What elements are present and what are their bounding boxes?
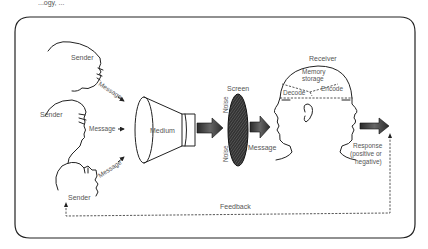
cut-off-caption: ...ogy, ... xyxy=(38,0,64,7)
post-screen-message-label: Message xyxy=(248,144,277,152)
sender-bottom: Sender Message xyxy=(56,157,124,201)
megaphone-tip-icon xyxy=(182,114,195,146)
fat-arrow-icon xyxy=(360,118,389,134)
communication-diagram: ...ogy, ... Sender Message Sender Messag… xyxy=(0,0,428,249)
medium-to-screen-arrow xyxy=(197,118,223,138)
feedback-arrowhead-right-icon xyxy=(388,133,392,138)
screen: Screen xyxy=(227,85,249,166)
screen-filter-icon xyxy=(228,94,248,166)
decode-label: Decode xyxy=(283,89,306,96)
message-label: Message xyxy=(89,125,116,133)
sender-head-icon xyxy=(56,162,98,196)
sender-head-icon xyxy=(45,100,86,163)
noise-label-bottom: Noise xyxy=(222,145,229,162)
memory-label-2: storage xyxy=(302,75,324,83)
response-label-3: negative) xyxy=(355,158,382,166)
sender-label: Sender xyxy=(68,194,91,201)
top-text-fragment: ...ogy, ... xyxy=(38,0,64,7)
noise-label-top: Noise xyxy=(222,96,229,113)
screen-label: Screen xyxy=(227,85,249,92)
ear-icon xyxy=(304,104,313,122)
feedback-arrowhead-left-icon xyxy=(64,202,68,207)
fat-arrow-icon xyxy=(250,116,270,138)
sender-middle: Sender Message xyxy=(40,100,124,163)
sender-label: Sender xyxy=(40,111,63,118)
encode-label: Encode xyxy=(321,85,343,92)
feedback-label: Feedback xyxy=(220,203,251,210)
sender-head-icon xyxy=(48,42,101,92)
receiver: Receiver Memory storage Decode Encode xyxy=(274,55,357,160)
response-arrow xyxy=(360,118,389,134)
medium-label: Medium xyxy=(150,127,175,134)
message-label: Message xyxy=(97,158,124,179)
sender-top: Sender Message xyxy=(48,42,124,102)
sender-mouth-icon xyxy=(84,168,88,173)
response: Response (positive or negative) xyxy=(350,142,383,166)
sender-label: Sender xyxy=(71,54,94,61)
screen-to-receiver-arrow xyxy=(250,116,270,138)
fat-arrow-icon xyxy=(197,118,223,138)
response-label-2: (positive or xyxy=(350,150,383,158)
megaphone-ring-icon xyxy=(185,114,187,146)
response-label-1: Response xyxy=(353,142,383,150)
brain-division-icon xyxy=(310,92,312,96)
medium-megaphone: Medium xyxy=(135,97,195,163)
receiver-label: Receiver xyxy=(309,55,337,62)
left-face-icon xyxy=(274,98,292,160)
